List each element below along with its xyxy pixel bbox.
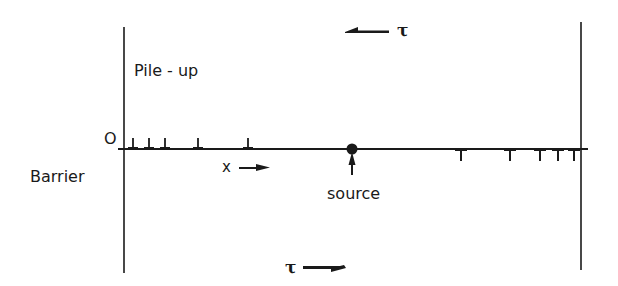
dislocation-up-icon [128,138,138,149]
dislocation-down-icon [534,149,546,161]
dislocation-up-icon [144,138,154,149]
x-axis-label: x [222,160,231,175]
barrier-label: Barrier [30,169,85,185]
diagram-canvas [0,0,618,286]
dislocation-up-icon [243,138,253,149]
right-dislocations [455,149,580,161]
bottom-tau-label: τ [285,259,296,276]
top-tau-label: τ [397,22,408,39]
top-tau-arrow-icon [345,27,389,33]
dislocation-up-icon [193,138,203,149]
pile-up-label: Pile - up [134,63,198,79]
dislocation-down-icon [568,149,580,161]
dislocation-down-icon [552,149,564,161]
left-dislocations [128,138,253,149]
dislocation-pileup-diagram: Pile - up O Barrier x source τ τ [0,0,618,286]
dislocation-down-icon [504,149,516,161]
bottom-tau-arrow-icon [303,265,346,272]
dislocation-up-icon [160,138,170,149]
source-label: source [327,186,380,202]
source-pointer-arrow-icon [349,152,356,175]
origin-label: O [104,131,117,147]
x-axis-arrow-icon [239,164,270,171]
dislocation-down-icon [455,149,467,161]
